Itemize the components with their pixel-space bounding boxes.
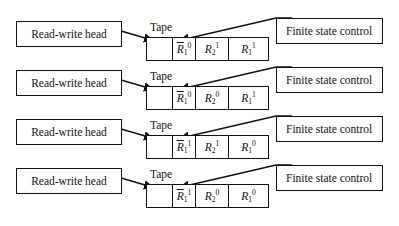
finite-state-control-label: Finite state control [286, 172, 372, 184]
machine-state-row: Read-write head Tape R10R21R11 Finite st… [0, 21, 399, 71]
tape-cell: R11 [228, 87, 268, 109]
tape-cell [147, 136, 172, 158]
tape-label: Tape [150, 21, 172, 33]
tape-cell: R10 [228, 136, 268, 158]
tape: R10R21R11 [146, 37, 269, 61]
register-symbol: R21 [205, 139, 220, 155]
register-symbol: R10 [177, 41, 192, 57]
tape-label: Tape [150, 70, 172, 82]
tape-cell [147, 87, 172, 109]
read-write-head-label: Read-write head [31, 175, 107, 187]
machine-state-row: Read-write head Tape R10R20R11 Finite st… [0, 70, 399, 120]
register-symbol: R10 [241, 188, 256, 204]
read-write-head-box: Read-write head [16, 21, 122, 47]
tape-label: Tape [150, 119, 172, 131]
tape-cell: R10 [172, 87, 195, 109]
tape-cell: R10 [228, 185, 268, 207]
register-symbol: R20 [205, 188, 220, 204]
read-write-head-box: Read-write head [16, 168, 122, 194]
read-write-head-label: Read-write head [31, 28, 107, 40]
tape-cell: R20 [195, 87, 228, 109]
register-symbol: R11 [241, 41, 256, 57]
register-symbol: R20 [205, 90, 220, 106]
read-write-head-label: Read-write head [31, 126, 107, 138]
register-symbol: R11 [241, 90, 256, 106]
register-symbol: R10 [241, 139, 256, 155]
finite-state-control-box: Finite state control [276, 18, 383, 44]
tape: R10R20R11 [146, 86, 269, 110]
tape-cell: R10 [172, 38, 195, 60]
tape-cell: R11 [172, 185, 195, 207]
read-write-head-label: Read-write head [31, 77, 107, 89]
machine-state-row: Read-write head Tape R11R20R10 Finite st… [0, 168, 399, 218]
tape-cell: R11 [228, 38, 268, 60]
tape-cell: R21 [195, 136, 228, 158]
machine-state-row: Read-write head Tape R11R21R10 Finite st… [0, 119, 399, 169]
finite-state-control-label: Finite state control [286, 123, 372, 135]
finite-state-control-box: Finite state control [276, 67, 383, 93]
finite-state-control-box: Finite state control [276, 116, 383, 142]
tape-cell [147, 38, 172, 60]
tape-label: Tape [150, 168, 172, 180]
finite-state-control-label: Finite state control [286, 74, 372, 86]
tape-cell: R11 [172, 136, 195, 158]
register-symbol: R11 [177, 188, 192, 204]
read-write-head-box: Read-write head [16, 119, 122, 145]
tape-cell: R21 [195, 38, 228, 60]
tape: R11R21R10 [146, 135, 269, 159]
finite-state-control-label: Finite state control [286, 25, 372, 37]
tape: R11R20R10 [146, 184, 269, 208]
finite-state-control-box: Finite state control [276, 165, 383, 191]
register-symbol: R10 [177, 90, 192, 106]
read-write-head-box: Read-write head [16, 70, 122, 96]
tape-cell: R20 [195, 185, 228, 207]
tape-cell [147, 185, 172, 207]
register-symbol: R11 [177, 139, 192, 155]
register-symbol: R21 [205, 41, 220, 57]
